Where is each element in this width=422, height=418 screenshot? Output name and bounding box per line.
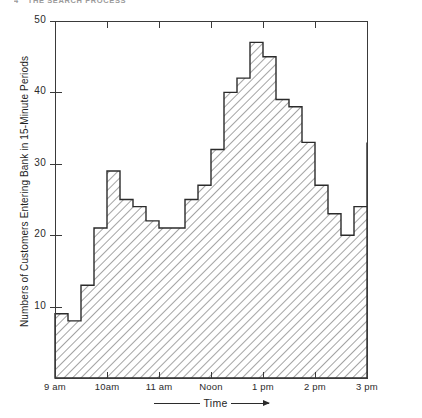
y-axis-tick-inner <box>56 92 62 93</box>
x-axis-tick-inner <box>315 22 316 28</box>
x-axis-tick <box>159 372 160 378</box>
x-axis-title-rule-left <box>154 403 200 404</box>
histogram-series <box>55 42 367 378</box>
y-axis-title: Numbers of Customers Entering Bank in 15… <box>19 42 30 342</box>
y-axis-tick-inner <box>56 235 62 236</box>
x-axis-line <box>55 378 368 379</box>
arrow-right-icon <box>263 400 270 406</box>
y-axis-tick-inner <box>56 164 62 165</box>
x-axis-tick-inner <box>263 22 264 28</box>
x-axis-tick-label: 2 pm <box>291 381 339 392</box>
x-axis-tick-inner <box>107 22 108 28</box>
histogram-plot <box>0 0 422 418</box>
x-axis-tick-label: 10am <box>83 381 131 392</box>
x-axis-tick <box>315 372 316 378</box>
x-axis-tick-inner <box>367 22 368 28</box>
x-axis-title: Time <box>200 397 230 409</box>
y-axis-tick-label: 50 <box>6 14 46 25</box>
plot-frame-right <box>367 21 368 378</box>
x-axis-tick <box>55 372 56 378</box>
x-axis-tick-inner <box>159 22 160 28</box>
y-axis-tick-inner <box>56 307 62 308</box>
x-axis-tick-label: 3 pm <box>343 381 391 392</box>
x-axis-tick-inner <box>55 22 56 28</box>
x-axis-tick-inner <box>211 22 212 28</box>
x-axis-tick <box>107 372 108 378</box>
x-axis-tick <box>263 372 264 378</box>
x-axis-title-rule-right <box>231 403 269 404</box>
x-axis-tick-label: Noon <box>187 381 235 392</box>
x-axis-tick <box>211 372 212 378</box>
x-axis-tick-label: 1 pm <box>239 381 287 392</box>
y-axis-tick-inner <box>56 21 62 22</box>
x-axis-tick-label: 11 am <box>135 381 183 392</box>
y-axis-line <box>55 21 56 378</box>
histogram-outline <box>55 42 367 378</box>
x-axis-tick-label: 9 am <box>31 381 79 392</box>
x-axis-tick <box>367 372 368 378</box>
figure-page: 4THE SEARCH PROCESS 1020304050 9 am10am1… <box>0 0 422 418</box>
x-axis-title-group: Time <box>55 397 368 409</box>
